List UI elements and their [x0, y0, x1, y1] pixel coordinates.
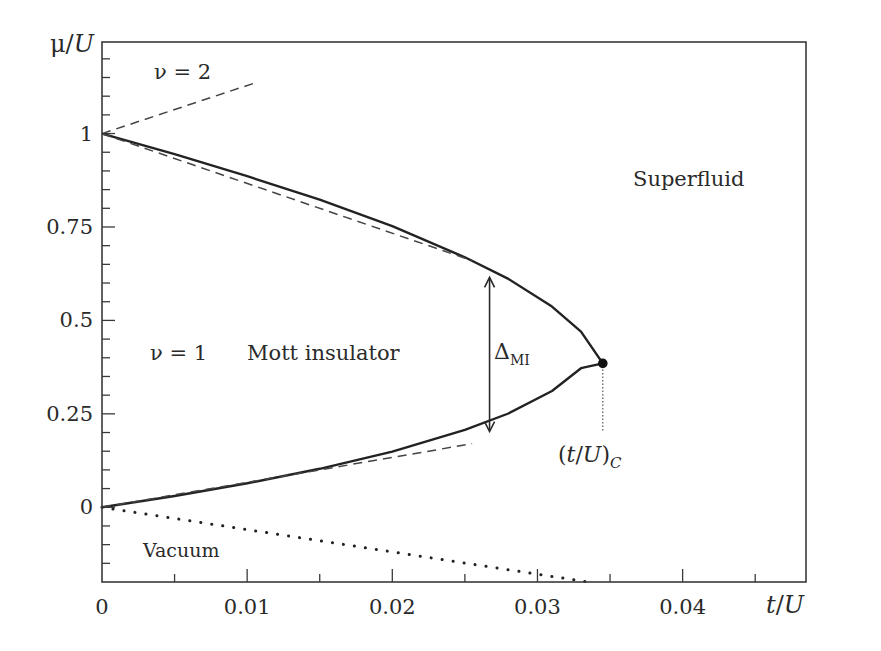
crit-t: t	[567, 442, 576, 467]
series-mott-lobe-boundary-lower-branch	[102, 363, 603, 507]
phase-diagram-chart: 00.010.020.030.0400.250.50.751 μ/U t/U ν…	[0, 0, 881, 651]
x-axis-label-U: U	[784, 591, 805, 619]
y-axis-label: μ/U	[50, 30, 95, 58]
y-tick-label: 0	[80, 495, 93, 519]
gap-label-delta: Δ	[494, 339, 510, 364]
annotation-nu2: ν = 2	[154, 60, 211, 84]
plot-frame	[102, 42, 806, 582]
annotation-superfluid: Superfluid	[633, 167, 745, 191]
annotation-mott-insulator: Mott insulator	[247, 341, 401, 365]
y-tick-label: 1	[80, 122, 93, 146]
y-axis-label-mu: μ	[50, 30, 66, 58]
series-mott-lobe-boundary-upper-branch	[102, 134, 603, 364]
x-tick-label: 0.01	[224, 595, 271, 619]
annotation-vacuum: Vacuum	[142, 539, 219, 561]
y-tick-label: 0.25	[46, 402, 93, 426]
series	[102, 83, 608, 582]
crit-U: U	[583, 442, 603, 467]
y-tick-label: 0.5	[60, 308, 93, 332]
y-axis-label-U: U	[74, 30, 95, 58]
gap-label-sub: MI	[510, 352, 530, 368]
crit-open: (	[558, 442, 567, 467]
critical-point-label: (t/U)C	[558, 442, 622, 472]
x-tick-label: 0.04	[659, 595, 706, 619]
series-perturbative-upper-1	[102, 134, 472, 261]
critical-point-marker	[598, 359, 608, 369]
y-tick-label: 0.75	[46, 215, 93, 239]
x-tick-label: 0	[95, 595, 108, 619]
crit-sub: C	[610, 454, 622, 472]
gap-label: ΔMI	[494, 339, 530, 368]
x-tick-label: 0.02	[369, 595, 416, 619]
series-perturbative-lower-2	[102, 83, 254, 134]
annotation-nu1: ν = 1	[150, 341, 207, 365]
axis-ticks	[102, 59, 755, 582]
x-tick-label: 0.03	[514, 595, 561, 619]
crit-close: )	[601, 442, 610, 467]
x-axis-label: t/U	[766, 591, 805, 619]
x-axis-label-t: t	[766, 591, 776, 619]
